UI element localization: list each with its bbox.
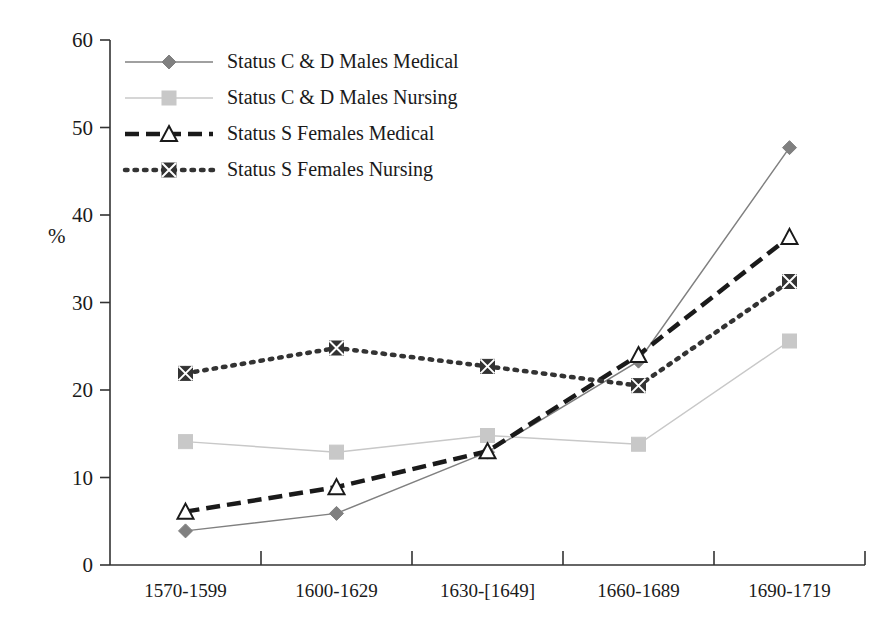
x-tick-label: 1660-1689: [597, 580, 679, 601]
data-point-marker-square: [481, 429, 495, 443]
data-point-marker-square: [783, 334, 797, 348]
series-line: [186, 237, 790, 512]
legend-entry-2[interactable]: Status C & D Males Nursing: [125, 86, 458, 109]
series-group: [178, 141, 798, 538]
y-tick-label: 20: [72, 378, 93, 402]
chart-container: 0102030405060 1570-15991600-16291630-[16…: [0, 0, 894, 629]
legend-label: Status C & D Males Medical: [227, 50, 459, 72]
legend-label: Status S Females Medical: [227, 122, 435, 144]
legend-label: Status C & D Males Nursing: [227, 86, 458, 109]
y-tick-label: 10: [72, 466, 93, 490]
legend-entry-3[interactable]: Status S Females Medical: [125, 122, 435, 144]
legend-label: Status S Females Nursing: [227, 158, 433, 181]
x-tick-label: 1690-1719: [748, 580, 830, 601]
series-1: [179, 141, 797, 538]
x-tick-label: 1600-1629: [295, 580, 377, 601]
data-point-marker-square: [162, 91, 176, 105]
legend-entry-4[interactable]: Status S Females Nursing: [125, 158, 433, 181]
data-point-marker-diamond: [330, 506, 344, 520]
legend-entry-1[interactable]: Status C & D Males Medical: [125, 50, 459, 72]
data-point-marker-triangle: [782, 229, 798, 244]
y-axis-label: %: [48, 224, 66, 248]
axes-group: [110, 40, 865, 565]
y-tick-label: 40: [72, 203, 93, 227]
y-tick-label: 50: [72, 116, 93, 140]
data-point-marker-square: [179, 435, 193, 449]
y-tick-group: 0102030405060: [72, 28, 110, 577]
series-4: [179, 275, 797, 393]
legend-group: Status C & D Males MedicalStatus C & D M…: [125, 50, 459, 181]
y-tick-label: 0: [83, 553, 94, 577]
data-point-marker-diamond: [783, 141, 797, 155]
series-2: [179, 334, 797, 459]
data-point-marker-square: [632, 437, 646, 451]
series-line: [186, 148, 790, 531]
x-tick-label: 1630-[1649]: [440, 580, 535, 601]
data-point-marker-diamond: [179, 524, 193, 538]
y-tick-label: 30: [72, 291, 93, 315]
y-tick-label: 60: [72, 28, 93, 52]
data-point-marker-diamond: [162, 55, 176, 69]
line-chart: 0102030405060 1570-15991600-16291630-[16…: [0, 0, 894, 629]
data-point-marker-square: [330, 445, 344, 459]
x-tick-label: 1570-1599: [144, 580, 226, 601]
x-tick-group: 1570-15991600-16291630-[1649]1660-168916…: [144, 551, 830, 601]
